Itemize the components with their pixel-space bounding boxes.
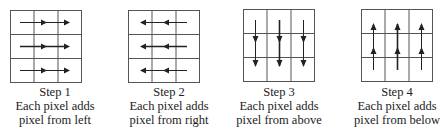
step-desc-line1: Each pixel adds [0, 99, 110, 113]
step-3-caption: Step 3 Each pixel adds pixel from above [224, 85, 334, 127]
step-desc-line1: Each pixel adds [114, 99, 224, 113]
step-2-caption: Step 2 Each pixel adds pixel from right [114, 85, 224, 127]
step-title: Step 1 [0, 85, 110, 99]
step-1-grid [0, 0, 110, 85]
step-3-grid [220, 0, 330, 85]
step-2-panel: Step 2 Each pixel adds pixel from right [110, 0, 220, 132]
step-title: Step 4 [342, 85, 445, 99]
step-1-caption: Step 1 Each pixel adds pixel from left [0, 85, 110, 127]
step-2-grid [110, 0, 220, 85]
step-desc-line2: pixel from below [342, 113, 445, 127]
step-desc-line2: pixel from right [114, 113, 224, 127]
step-4-panel: Step 4 Each pixel adds pixel from below [330, 0, 440, 132]
step-4-caption: Step 4 Each pixel adds pixel from below [342, 85, 445, 127]
step-1-panel: Step 1 Each pixel adds pixel from left [0, 0, 110, 132]
step-title: Step 3 [224, 85, 334, 99]
step-desc-line2: pixel from left [0, 113, 110, 127]
step-desc-line1: Each pixel adds [342, 99, 445, 113]
step-3-panel: Step 3 Each pixel adds pixel from above [220, 0, 330, 132]
step-title: Step 2 [114, 85, 224, 99]
step-4-grid [330, 0, 440, 85]
step-desc-line1: Each pixel adds [224, 99, 334, 113]
step-desc-line2: pixel from above [224, 113, 334, 127]
